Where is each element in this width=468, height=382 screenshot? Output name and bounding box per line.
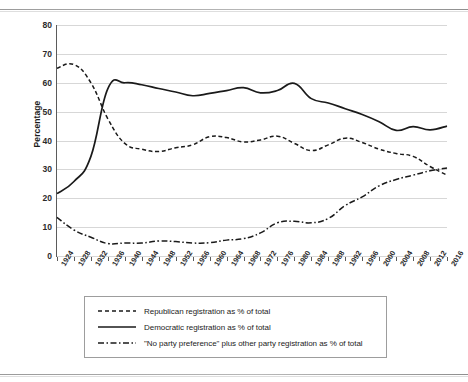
x-tick-mark (176, 257, 177, 261)
y-tick-label: 40 (30, 137, 52, 146)
y-tick-label: 60 (30, 79, 52, 88)
registration-percentage-line-chart: Percentage 01020304050607080 19241928193… (0, 14, 468, 276)
series-lines (57, 25, 447, 256)
page-canvas: Percentage 01020304050607080 19241928193… (0, 0, 468, 382)
legend-swatch-dashed-icon (97, 307, 137, 315)
x-tick-mark (277, 257, 278, 261)
top-rule-shadow (0, 11, 468, 12)
chart-legend: Republican registration as % of total De… (84, 296, 387, 358)
bottom-rule-shadow (0, 376, 468, 377)
x-tick-mark (91, 257, 92, 261)
legend-label-no-party-preference: "No party preference" plus other party r… (144, 339, 363, 348)
legend-item-republican: Republican registration as % of total (97, 304, 270, 318)
y-axis: Percentage 01020304050607080 (26, 14, 52, 276)
series-line (57, 168, 447, 244)
x-tick-mark (159, 257, 160, 261)
x-tick-mark (142, 257, 143, 261)
x-tick-mark (227, 257, 228, 261)
x-tick-mark (447, 257, 448, 261)
x-tick-label: 2016 (449, 249, 465, 268)
legend-label-democratic: Democratic registration as % of total (144, 323, 271, 332)
x-tick-mark (108, 257, 109, 261)
x-tick-mark (396, 257, 397, 261)
y-tick-label: 0 (30, 252, 52, 261)
y-tick-label: 50 (30, 108, 52, 117)
x-tick-mark (345, 257, 346, 261)
x-tick-mark (57, 257, 58, 261)
x-tick-mark (244, 257, 245, 261)
y-tick-label: 20 (30, 194, 52, 203)
legend-swatch-dashdot-icon (97, 339, 137, 347)
legend-item-no-party-preference: "No party preference" plus other party r… (97, 336, 363, 350)
plot-area (57, 25, 447, 256)
x-tick-mark (210, 257, 211, 261)
y-tick-label: 70 (30, 50, 52, 59)
x-tick-mark (311, 257, 312, 261)
legend-label-republican: Republican registration as % of total (144, 307, 270, 316)
legend-item-democratic: Democratic registration as % of total (97, 320, 271, 334)
x-tick-mark (413, 257, 414, 261)
y-tick-label: 10 (30, 223, 52, 232)
x-tick-mark (193, 257, 194, 261)
x-tick-mark (328, 257, 329, 261)
bottom-rule-divider (0, 374, 468, 375)
top-rule-divider (0, 9, 468, 10)
series-line (57, 80, 447, 194)
y-tick-label: 30 (30, 165, 52, 174)
x-tick-mark (379, 257, 380, 261)
y-tick-label: 80 (30, 21, 52, 30)
x-tick-mark (294, 257, 295, 261)
x-tick-mark (260, 257, 261, 261)
x-tick-mark (125, 257, 126, 261)
legend-swatch-solid-icon (97, 323, 137, 331)
x-tick-mark (362, 257, 363, 261)
x-tick-mark (430, 257, 431, 261)
x-tick-mark (74, 257, 75, 261)
y-axis-title: Percentage (32, 84, 42, 164)
